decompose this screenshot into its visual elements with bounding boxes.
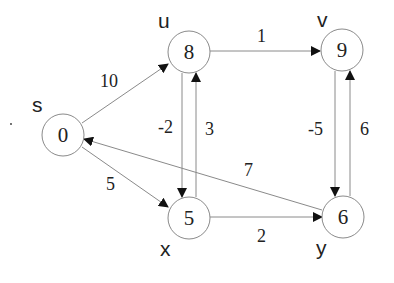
edge-y-s — [84, 139, 322, 210]
edge-s-u — [82, 64, 168, 123]
stray-dot — [10, 123, 12, 125]
edge-weight-y-s: 7 — [244, 160, 253, 180]
graph-diagram: 08956 1051-23-5672suvxy — [0, 0, 394, 283]
node-name-u: u — [158, 9, 170, 32]
edge-weight-x-y: 2 — [257, 226, 266, 246]
edge-weight-x-u: 3 — [205, 119, 214, 139]
node-value: 0 — [58, 123, 69, 147]
node-value: 5 — [184, 206, 195, 230]
node-name-s: s — [32, 93, 43, 116]
node-name-v: v — [317, 8, 328, 31]
edge-weight-u-v: 1 — [257, 26, 266, 46]
node-u: 8 — [168, 31, 210, 73]
node-x: 5 — [168, 197, 210, 239]
edge-weight-y-v: 6 — [360, 119, 369, 139]
node-y: 6 — [322, 196, 364, 238]
edge-weight-s-x: 5 — [106, 174, 115, 194]
node-value: 6 — [338, 205, 349, 229]
node-name-x: x — [160, 237, 171, 260]
node-name-y: y — [316, 236, 327, 259]
edge-weight-s-u: 10 — [100, 71, 118, 91]
graph-canvas: 08956 1051-23-5672suvxy — [0, 0, 394, 283]
edge-weight-u-x: -2 — [158, 117, 173, 137]
edge-weight-v-y: -5 — [308, 119, 323, 139]
node-v: 9 — [321, 29, 363, 71]
node-value: 9 — [337, 38, 348, 62]
node-value: 8 — [184, 40, 195, 64]
edge-s-x — [82, 147, 168, 207]
node-s: 0 — [42, 114, 84, 156]
